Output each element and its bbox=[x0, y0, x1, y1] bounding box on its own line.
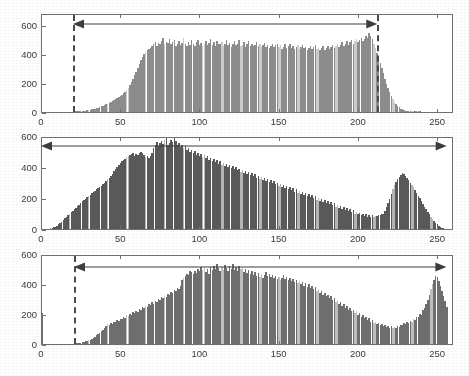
histogram-bar bbox=[251, 271, 252, 344]
histogram-bar bbox=[207, 269, 208, 344]
histogram-bar bbox=[432, 219, 433, 229]
histogram-bar bbox=[253, 46, 254, 112]
histogram-bar bbox=[359, 40, 360, 112]
histogram-bar bbox=[334, 203, 335, 229]
x-tick-mark-top bbox=[437, 137, 438, 141]
histogram-bar bbox=[346, 208, 347, 229]
histogram-bar bbox=[384, 325, 385, 344]
histogram-bar bbox=[132, 312, 133, 344]
histogram-bar bbox=[150, 305, 151, 344]
histogram-bar bbox=[77, 111, 78, 112]
histogram-bar bbox=[340, 206, 341, 229]
histogram-bar bbox=[373, 44, 374, 112]
histogram-bar bbox=[254, 272, 255, 344]
histogram-bar bbox=[329, 49, 330, 112]
histogram-bar bbox=[216, 264, 217, 344]
histogram-bar bbox=[166, 297, 167, 344]
histogram-bar bbox=[42, 343, 43, 345]
histogram-bars bbox=[42, 138, 452, 229]
histogram-bar bbox=[200, 267, 201, 344]
histogram-bar bbox=[414, 111, 415, 112]
histogram-bar bbox=[288, 189, 289, 229]
histogram-bar bbox=[205, 158, 206, 229]
histogram-bar bbox=[380, 325, 381, 344]
histogram-bar bbox=[381, 324, 382, 344]
histogram-bar bbox=[139, 309, 140, 344]
histogram-bar bbox=[343, 207, 344, 229]
histogram-bar bbox=[145, 157, 146, 229]
histogram-bar bbox=[410, 183, 411, 230]
histogram-bar bbox=[300, 284, 301, 344]
histogram-bar bbox=[128, 88, 129, 112]
histogram-bar bbox=[229, 43, 230, 112]
histogram-bar bbox=[85, 341, 86, 344]
histogram-bar bbox=[265, 47, 266, 113]
histogram-bar bbox=[178, 289, 179, 344]
histogram-bar bbox=[188, 275, 189, 344]
x-tick-mark bbox=[279, 226, 280, 230]
histogram-bar bbox=[315, 196, 316, 229]
histogram-bar bbox=[101, 331, 102, 344]
histogram-bar bbox=[85, 199, 86, 229]
histogram-bar bbox=[300, 194, 301, 229]
histogram-bar bbox=[159, 143, 160, 229]
histogram-bar bbox=[277, 44, 278, 112]
histogram-bar bbox=[139, 64, 140, 112]
histogram-bar bbox=[354, 313, 355, 344]
histogram-bar bbox=[148, 304, 149, 344]
histogram-bar bbox=[408, 180, 409, 229]
histogram-bar bbox=[242, 45, 243, 112]
histogram-bar bbox=[231, 269, 232, 344]
histogram-panel-bottom: 0200400600050100150200250 bbox=[0, 0, 469, 376]
histogram-bar bbox=[227, 45, 228, 112]
histogram-bar bbox=[330, 202, 331, 229]
histogram-bar bbox=[153, 304, 154, 345]
histogram-bar bbox=[115, 322, 116, 344]
histogram-bar bbox=[234, 169, 235, 229]
histogram-bar bbox=[199, 271, 200, 344]
histogram-bar bbox=[242, 268, 243, 345]
histogram-bar bbox=[232, 44, 233, 112]
histogram-bar bbox=[302, 282, 303, 344]
histogram-bar bbox=[365, 36, 366, 112]
histogram-bar bbox=[392, 99, 393, 112]
histogram-bar bbox=[166, 42, 167, 112]
histogram-bar bbox=[334, 298, 335, 344]
histogram-bar bbox=[297, 45, 298, 112]
histogram-bar bbox=[399, 177, 400, 229]
histogram-bar bbox=[343, 304, 344, 344]
histogram-bar bbox=[185, 276, 186, 344]
histogram-bar bbox=[196, 42, 197, 112]
histogram-bar bbox=[394, 185, 395, 229]
histogram-bar bbox=[143, 155, 144, 229]
histogram-bar bbox=[386, 207, 387, 229]
histogram-bar bbox=[131, 82, 132, 112]
histogram-bar bbox=[216, 41, 217, 112]
histogram-bar bbox=[86, 341, 87, 344]
histogram-bar bbox=[272, 275, 273, 344]
histogram-bar bbox=[169, 39, 170, 112]
histogram-bar bbox=[427, 300, 428, 344]
histogram-bar bbox=[164, 140, 165, 229]
histogram-bar bbox=[305, 47, 306, 113]
histogram-bar bbox=[142, 57, 143, 112]
y-tick-label: 200 bbox=[3, 79, 37, 89]
histogram-bar bbox=[135, 154, 136, 229]
histogram-bar bbox=[341, 306, 342, 344]
histogram-bar bbox=[397, 326, 398, 344]
histogram-bar bbox=[94, 109, 95, 112]
histogram-bar bbox=[378, 323, 379, 344]
histogram-bar bbox=[311, 195, 312, 229]
histogram-bar bbox=[234, 41, 235, 112]
histogram-bar bbox=[186, 274, 187, 345]
histogram-bar bbox=[246, 273, 247, 344]
histogram-bar bbox=[292, 46, 293, 112]
plot-axes-3 bbox=[41, 255, 453, 345]
histogram-bar bbox=[194, 46, 195, 112]
histogram-bar bbox=[254, 45, 255, 112]
x-tick-mark-top bbox=[41, 255, 42, 259]
histogram-bar bbox=[175, 141, 176, 229]
histogram-bar bbox=[383, 73, 384, 112]
y-tick-label: 400 bbox=[3, 280, 37, 290]
histogram-bar bbox=[156, 302, 157, 344]
